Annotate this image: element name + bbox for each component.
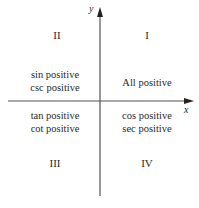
quadrant-II-line-1: sin positive	[18, 68, 92, 81]
axes-graphic	[0, 0, 199, 208]
quadrant-II-numeral: II	[40, 29, 74, 41]
quadrant-III-line-2: cot positive	[18, 122, 92, 135]
quadrant-II-line-2: csc positive	[18, 81, 92, 94]
quadrant-I-line-1: All positive	[110, 76, 184, 89]
y-axis-label: y	[89, 3, 93, 14]
quadrant-II-text: sin positive csc positive	[18, 68, 92, 94]
quadrant-III-numeral: III	[38, 157, 72, 169]
quadrant-IV-line-1: cos positive	[110, 109, 184, 122]
quadrant-III-line-1: tan positive	[18, 109, 92, 122]
quadrant-IV-line-2: sec positive	[110, 122, 184, 135]
quadrant-IV-text: cos positive sec positive	[110, 109, 184, 135]
quadrant-I-numeral: I	[130, 29, 164, 41]
quadrant-IV-numeral: IV	[130, 157, 164, 169]
quadrant-I-text: All positive	[110, 76, 184, 89]
x-axis-label: x	[184, 104, 188, 115]
quadrant-III-text: tan positive cot positive	[18, 109, 92, 135]
y-arrowhead-icon	[97, 7, 103, 17]
